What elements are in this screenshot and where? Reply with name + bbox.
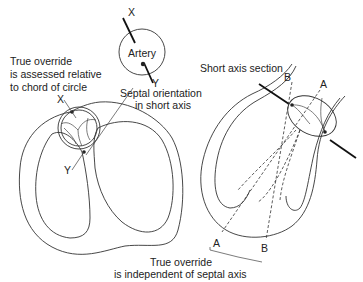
bracket [210, 247, 262, 262]
axis-label-b-top: B [284, 71, 291, 83]
short-axis-heart: X Y [19, 93, 182, 254]
axis-label-x-top: X [128, 6, 135, 18]
axis-label-b-bottom: B [261, 242, 268, 254]
artery-label: Artery [128, 47, 157, 59]
long-axis-heart: B A A B [201, 64, 356, 254]
caption-true-override-left: True override is assessed relative to ch… [10, 55, 105, 93]
diagram: Artery X Y X Y True override is assessed… [0, 0, 363, 282]
caption-true-override-right: True override is independent of septal a… [114, 256, 247, 280]
axis-label-x-inner: X [57, 93, 64, 105]
artery-cross-section: Artery X Y [119, 6, 165, 89]
caption-short-axis-section: Short axis section [200, 62, 283, 74]
axis-label-a-bottom: A [213, 237, 220, 249]
axis-label-a-top: A [320, 78, 327, 90]
axis-label-y-inner: Y [64, 164, 71, 176]
